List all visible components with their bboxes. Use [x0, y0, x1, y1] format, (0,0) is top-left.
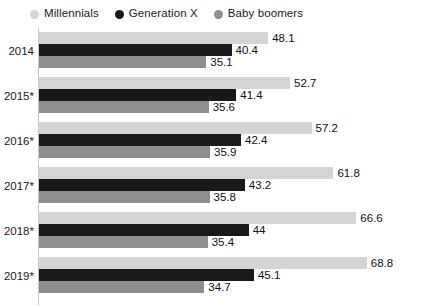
- bar-group: 2016*57.242.435.9: [0, 122, 424, 160]
- bar-genx[interactable]: [39, 89, 236, 101]
- circle-swatch-icon: [115, 10, 124, 19]
- category-axis-label: 2016*: [0, 135, 34, 147]
- category-axis-label: 2019*: [0, 270, 34, 282]
- bar-value-label: 41.4: [240, 89, 262, 101]
- bar-row: 44: [39, 224, 265, 236]
- bar-value-label: 48.1: [272, 32, 294, 44]
- bar-boomers[interactable]: [39, 281, 204, 293]
- legend-item-baby-boomers[interactable]: Baby boomers: [214, 8, 303, 20]
- bar-value-label: 40.4: [236, 44, 258, 56]
- bar-row: 35.4: [39, 236, 234, 248]
- bar-genx[interactable]: [39, 179, 245, 191]
- bar-value-label: 35.1: [210, 56, 232, 68]
- bar-row: 57.2: [39, 122, 338, 134]
- bar-millennials[interactable]: [39, 212, 356, 224]
- category-axis-label: 2018*: [0, 225, 34, 237]
- bar-row: 35.8: [39, 191, 236, 203]
- bar-row: 35.9: [39, 146, 236, 158]
- bar-row: 40.4: [39, 44, 258, 56]
- bar-millennials[interactable]: [39, 257, 367, 269]
- bar-chart: MillennialsGeneration XBaby boomers 2014…: [0, 0, 424, 307]
- bar-boomers[interactable]: [39, 236, 208, 248]
- bar-value-label: 35.6: [213, 101, 235, 113]
- bar-row: 68.8: [39, 257, 393, 269]
- category-axis-label: 2015*: [0, 90, 34, 102]
- circle-swatch-icon: [214, 10, 223, 19]
- bar-value-label: 44: [253, 224, 266, 236]
- bar-boomers[interactable]: [39, 101, 209, 113]
- bar-row: 66.6: [39, 212, 383, 224]
- bar-value-label: 57.2: [316, 122, 338, 134]
- bar-boomers[interactable]: [39, 146, 210, 158]
- bar-row: 43.2: [39, 179, 271, 191]
- bar-value-label: 66.6: [360, 212, 382, 224]
- category-axis-label: 2014: [0, 45, 34, 57]
- bar-group: 201448.140.435.1: [0, 32, 424, 70]
- bar-value-label: 61.8: [337, 167, 359, 179]
- bar-value-label: 35.9: [214, 146, 236, 158]
- circle-swatch-icon: [30, 10, 39, 19]
- bar-millennials[interactable]: [39, 77, 290, 89]
- bar-genx[interactable]: [39, 224, 249, 236]
- bar-boomers[interactable]: [39, 191, 210, 203]
- bar-group: 2018*66.64435.4: [0, 212, 424, 250]
- bar-row: 45.1: [39, 269, 280, 281]
- bar-group: 2015*52.741.435.6: [0, 77, 424, 115]
- bar-group: 2019*68.845.134.7: [0, 257, 424, 295]
- bar-row: 52.7: [39, 77, 317, 89]
- bar-boomers[interactable]: [39, 56, 206, 68]
- bar-value-label: 68.8: [371, 257, 393, 269]
- legend-item-label: Baby boomers: [228, 8, 303, 20]
- legend-item-label: Generation X: [129, 8, 198, 20]
- bar-genx[interactable]: [39, 134, 241, 146]
- legend-item-millennials[interactable]: Millennials: [30, 8, 99, 20]
- bar-row: 61.8: [39, 167, 360, 179]
- bar-row: 42.4: [39, 134, 267, 146]
- bar-group: 2017*61.843.235.8: [0, 167, 424, 205]
- bar-millennials[interactable]: [39, 167, 333, 179]
- legend-item-generation-x[interactable]: Generation X: [115, 8, 198, 20]
- chart-legend: MillennialsGeneration XBaby boomers: [30, 4, 303, 24]
- bar-millennials[interactable]: [39, 122, 312, 134]
- bar-row: 48.1: [39, 32, 295, 44]
- bar-millennials[interactable]: [39, 32, 268, 44]
- bar-genx[interactable]: [39, 269, 254, 281]
- bar-value-label: 43.2: [249, 179, 271, 191]
- bar-value-label: 35.4: [212, 236, 234, 248]
- bar-value-label: 34.7: [208, 281, 230, 293]
- bar-row: 35.6: [39, 101, 235, 113]
- bar-row: 34.7: [39, 281, 231, 293]
- bar-value-label: 42.4: [245, 134, 267, 146]
- bar-value-label: 45.1: [258, 269, 280, 281]
- bar-value-label: 52.7: [294, 77, 316, 89]
- plot-area: 201448.140.435.12015*52.741.435.62016*57…: [0, 26, 424, 307]
- bar-row: 41.4: [39, 89, 263, 101]
- legend-item-label: Millennials: [44, 8, 99, 20]
- bar-row: 35.1: [39, 56, 233, 68]
- category-axis-label: 2017*: [0, 180, 34, 192]
- bar-genx[interactable]: [39, 44, 232, 56]
- bar-value-label: 35.8: [214, 191, 236, 203]
